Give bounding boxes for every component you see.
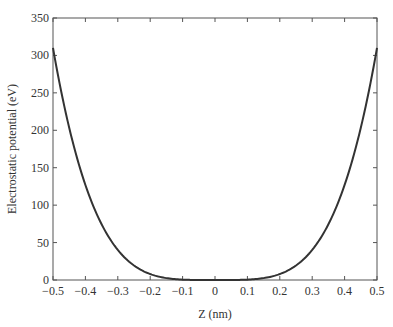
plot-frame bbox=[53, 18, 377, 280]
x-tick-label: −0.2 bbox=[139, 284, 161, 298]
x-tick-label: 0.4 bbox=[337, 284, 352, 298]
y-tick-label: 300 bbox=[31, 48, 49, 62]
y-tick-label: 100 bbox=[31, 198, 49, 212]
plot-area-border bbox=[53, 18, 377, 280]
y-tick-label: 250 bbox=[31, 86, 49, 100]
x-tick-label: 0.5 bbox=[370, 284, 385, 298]
chart: −0.5−0.4−0.3−0.2−0.100.10.20.30.40.5 050… bbox=[0, 0, 393, 327]
y-tick-label: 200 bbox=[31, 123, 49, 137]
x-tick-label: −0.4 bbox=[75, 284, 97, 298]
potential-curve bbox=[53, 48, 377, 280]
x-tick-label: −0.3 bbox=[107, 284, 129, 298]
x-axis-label: Z (nm) bbox=[198, 307, 232, 321]
x-tick-label: 0 bbox=[212, 284, 218, 298]
y-axis-label: Electrostatic potential (eV) bbox=[5, 84, 19, 214]
y-tick-label: 0 bbox=[43, 273, 49, 287]
x-axis-ticks: −0.5−0.4−0.3−0.2−0.100.10.20.30.40.5 bbox=[42, 18, 384, 298]
x-tick-label: 0.3 bbox=[305, 284, 320, 298]
x-tick-label: 0.1 bbox=[240, 284, 255, 298]
y-tick-label: 50 bbox=[37, 236, 49, 250]
x-tick-label: 0.2 bbox=[272, 284, 287, 298]
x-tick-label: −0.1 bbox=[172, 284, 194, 298]
y-axis-ticks: 050100150200250300350 bbox=[31, 11, 377, 287]
y-tick-label: 150 bbox=[31, 161, 49, 175]
y-tick-label: 350 bbox=[31, 11, 49, 25]
